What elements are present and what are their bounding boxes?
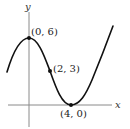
x-axis-label: x	[115, 99, 121, 110]
y-axis-label: y	[24, 1, 31, 12]
point-label-4-0: (4, 0)	[60, 108, 87, 119]
function-graph: x y (0, 6) (2, 3) (4, 0)	[0, 0, 130, 129]
point-label-0-6: (0, 6)	[31, 26, 58, 37]
point-marker-2-3	[48, 69, 52, 73]
point-marker-4-0	[69, 103, 73, 107]
point-label-2-3: (2, 3)	[53, 63, 80, 74]
